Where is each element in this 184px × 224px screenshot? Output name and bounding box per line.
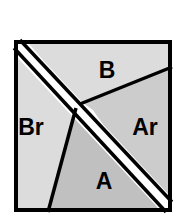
region-label-a: A [96, 168, 113, 194]
partitioned-square-diagram: B Ar Br A [0, 0, 184, 224]
region-label-br: Br [18, 114, 44, 140]
figure-container: B Ar Br A [0, 0, 184, 224]
region-label-b: B [99, 57, 116, 83]
region-label-ar: Ar [132, 114, 158, 140]
